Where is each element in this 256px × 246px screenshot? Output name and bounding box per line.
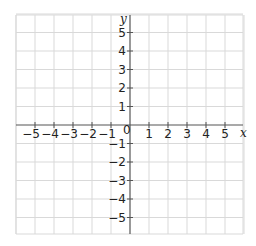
x-tick-label: −5 (22, 127, 40, 141)
y-tick-label: 3 (118, 63, 126, 77)
y-tick-label: 2 (118, 81, 126, 95)
x-tick-label: 3 (183, 127, 191, 141)
y-tick-label: 4 (118, 44, 126, 58)
x-tick-label: 2 (164, 127, 172, 141)
origin-label: 0 (123, 123, 131, 137)
y-axis-label: y (119, 12, 127, 26)
y-tick-label: 1 (118, 100, 126, 114)
y-tick-label: −3 (108, 174, 126, 188)
axis-labels: −5−4−3−2−11234554321−1−2−3−4−50xy (22, 12, 247, 225)
y-tick-label: −1 (108, 137, 126, 151)
x-tick-label: 4 (202, 127, 210, 141)
x-tick-label: 1 (145, 127, 153, 141)
y-tick-label: −2 (108, 155, 126, 169)
x-tick-label: −3 (60, 127, 78, 141)
x-tick-label: 5 (221, 127, 229, 141)
x-axis-label: x (240, 126, 247, 140)
y-tick-label: 5 (118, 26, 126, 40)
coordinate-plane: −5−4−3−2−11234554321−1−2−3−4−50xy (0, 0, 256, 246)
x-tick-label: −4 (41, 127, 59, 141)
y-tick-label: −4 (108, 192, 126, 206)
y-tick-label: −5 (108, 211, 126, 225)
x-tick-label: −2 (79, 127, 97, 141)
